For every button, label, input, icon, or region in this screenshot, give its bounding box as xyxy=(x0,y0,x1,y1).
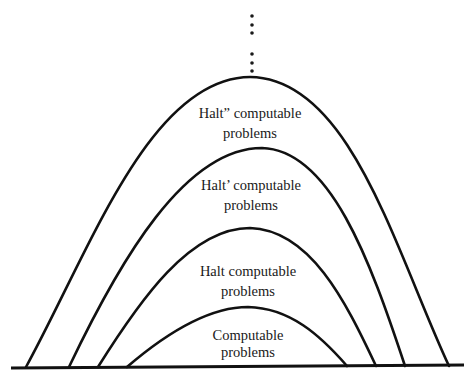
baseline xyxy=(11,365,464,368)
label-computable: Computable problems xyxy=(148,327,348,361)
label-halt1-line2: problems xyxy=(151,195,351,215)
label-halt2-line1: Halt” computable xyxy=(150,103,350,123)
label-halt2: Halt” computable problems xyxy=(150,103,350,143)
label-computable-line2: problems xyxy=(148,344,348,361)
label-halt2-line2: problems xyxy=(150,123,350,143)
label-halt0-line1: Halt computable xyxy=(148,261,348,281)
label-halt0-line2: problems xyxy=(148,281,348,301)
label-halt1-line1: Halt’ computable xyxy=(151,175,351,195)
ellipsis-dots-icon xyxy=(250,14,254,73)
label-computable-line1: Computable xyxy=(148,327,348,344)
label-halt1: Halt’ computable problems xyxy=(151,175,351,215)
label-halt0: Halt computable problems xyxy=(148,261,348,301)
